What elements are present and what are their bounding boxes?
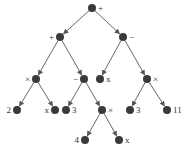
- tree-node: ×: [98, 105, 113, 115]
- tree-edge: [38, 82, 52, 105]
- node-label: ×: [25, 74, 30, 84]
- tree-node: x: [115, 135, 130, 145]
- tree-node: 2: [7, 105, 22, 115]
- node-label: −: [129, 32, 134, 42]
- node-dot: [88, 4, 96, 12]
- node-label: 2: [7, 105, 12, 115]
- node-dot: [143, 75, 151, 83]
- tree-edge: [38, 40, 58, 74]
- expression-tree-diagram: ++−×−x×2x3×3114x: [0, 0, 182, 149]
- tree-edge: [125, 40, 145, 74]
- tree-node: 4: [75, 135, 90, 145]
- node-dot: [80, 75, 88, 83]
- node-label: −: [73, 74, 78, 84]
- node-label: 4: [75, 135, 80, 145]
- tree-edge: [20, 82, 34, 105]
- tree-edge: [69, 82, 82, 105]
- tree-node: 11: [163, 105, 182, 115]
- node-dot: [115, 136, 123, 144]
- tree-edge: [86, 82, 99, 105]
- node-dot: [119, 33, 127, 41]
- node-dot: [13, 106, 21, 114]
- node-label: x: [45, 105, 50, 115]
- node-label: 3: [72, 105, 77, 115]
- node-dot: [62, 106, 70, 114]
- node-label: 3: [136, 105, 141, 115]
- tree-node: 3: [62, 105, 77, 115]
- node-label: +: [98, 3, 103, 13]
- tree-edge: [149, 82, 164, 105]
- node-dot: [163, 106, 171, 114]
- node-label: x: [106, 74, 111, 84]
- node-dot: [81, 136, 89, 144]
- tree-edge: [104, 113, 117, 135]
- node-dot: [126, 106, 134, 114]
- tree-edge: [62, 40, 82, 74]
- tree-node: 3: [126, 105, 141, 115]
- tree-node: x: [45, 105, 60, 115]
- node-label: ×: [108, 105, 113, 115]
- tree-node: ×: [143, 74, 158, 84]
- node-dot: [98, 106, 106, 114]
- node-label: x: [125, 135, 130, 145]
- tree-node: −: [119, 32, 134, 42]
- tree-node: ×: [25, 74, 40, 84]
- node-label: 11: [173, 105, 182, 115]
- node-label: ×: [153, 74, 158, 84]
- node-dot: [56, 33, 64, 41]
- tree-node: x: [96, 74, 111, 84]
- node-dot: [96, 75, 104, 83]
- node-label: +: [49, 32, 54, 42]
- tree-edge: [87, 113, 100, 135]
- tree-edge: [132, 83, 145, 106]
- tree-canvas: ++−×−x×2x3×3114x: [0, 0, 182, 149]
- tree-node: +: [49, 32, 64, 42]
- tree-edge: [95, 11, 119, 34]
- node-dot: [51, 106, 59, 114]
- tree-node: −: [73, 74, 88, 84]
- node-dot: [32, 75, 40, 83]
- tree-edge: [64, 11, 89, 34]
- tree-edge: [102, 41, 121, 75]
